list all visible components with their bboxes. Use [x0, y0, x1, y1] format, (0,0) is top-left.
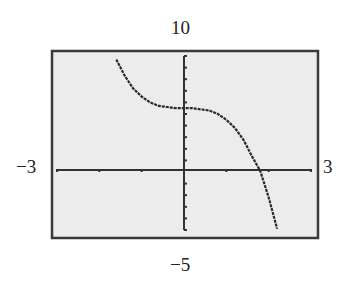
graph-screen	[0, 0, 350, 281]
